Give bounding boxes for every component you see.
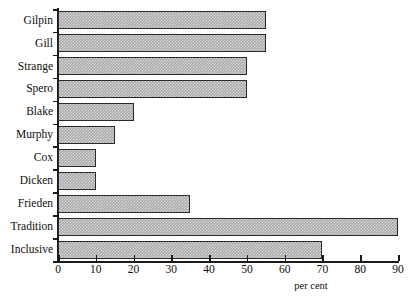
bar-murphy: [58, 126, 115, 144]
value-tick-80: [360, 255, 362, 261]
bar-blake: [58, 103, 134, 121]
bar-row: [58, 241, 398, 259]
category-label-gilpin: Gilpin: [0, 11, 53, 29]
category-label-cox: Cox: [0, 149, 53, 167]
value-tick-label-60: 60: [279, 264, 291, 276]
category-label-gill: Gill: [0, 34, 53, 52]
value-tick-10: [96, 255, 98, 261]
value-tick-label-40: 40: [203, 264, 215, 276]
category-label-frieden: Frieden: [0, 195, 53, 213]
bar-frieden: [58, 195, 190, 213]
value-tick-30: [171, 255, 173, 261]
bar-dicken: [58, 172, 96, 190]
x-axis-line: [57, 261, 399, 263]
bar-row: [58, 218, 398, 236]
bar-cox: [58, 149, 96, 167]
value-tick-50: [247, 255, 249, 261]
value-tick-label-0: 0: [55, 264, 61, 276]
value-tick-90: [398, 255, 400, 261]
bar-row: [58, 11, 398, 29]
x-axis-title: per cent: [0, 281, 412, 292]
value-tick-label-20: 20: [128, 264, 140, 276]
bar-row: [58, 34, 398, 52]
value-tick-label-90: 90: [392, 264, 404, 276]
bar-tradition: [58, 218, 398, 236]
value-tick-label-30: 30: [166, 264, 178, 276]
bar-row: [58, 80, 398, 98]
category-label-dicken: Dicken: [0, 172, 53, 190]
bar-row: [58, 57, 398, 75]
bar-strange: [58, 57, 247, 75]
bar-gilpin: [58, 11, 266, 29]
category-label-spero: Spero: [0, 80, 53, 98]
category-label-inclusive: Inclusive: [0, 241, 53, 259]
bar-row: [58, 195, 398, 213]
bar-spero: [58, 80, 247, 98]
value-tick-40: [209, 255, 211, 261]
bar-row: [58, 149, 398, 167]
value-tick-70: [322, 255, 324, 261]
value-tick-label-80: 80: [354, 264, 366, 276]
category-axis-labels: GilpinGillStrangeSperoBlakeMurphyCoxDick…: [0, 9, 53, 261]
bar-row: [58, 103, 398, 121]
bar-inclusive: [58, 241, 322, 259]
category-label-strange: Strange: [0, 57, 53, 75]
x-axis-title-text: per cent: [294, 280, 328, 291]
bar-row: [58, 172, 398, 190]
value-tick-0: [58, 255, 60, 261]
category-label-murphy: Murphy: [0, 126, 53, 144]
value-tick-label-10: 10: [90, 264, 102, 276]
bar-chart: GilpinGillStrangeSperoBlakeMurphyCoxDick…: [0, 0, 412, 301]
value-tick-60: [285, 255, 287, 261]
category-label-tradition: Tradition: [0, 218, 53, 236]
bar-gill: [58, 34, 266, 52]
value-tick-20: [134, 255, 136, 261]
category-label-blake: Blake: [0, 103, 53, 121]
plot-area: [58, 9, 398, 261]
value-tick-label-70: 70: [317, 264, 329, 276]
value-tick-label-50: 50: [241, 264, 253, 276]
bar-row: [58, 126, 398, 144]
